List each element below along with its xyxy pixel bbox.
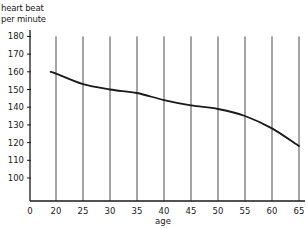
x-axis-ticks: 020253035404550556065: [27, 206, 304, 216]
y-tick-label: 170: [8, 49, 24, 59]
heart-rate-line: [51, 72, 299, 146]
line-chart: 100110120130140150160170180 020253035404…: [0, 0, 307, 229]
y-axis-ticks: 100110120130140150160170180: [8, 31, 31, 183]
x-tick-label: 55: [240, 206, 251, 216]
y-tick-label: 130: [8, 120, 24, 130]
x-tick-label: 20: [51, 206, 62, 216]
axes: [30, 30, 305, 201]
x-tick-label: 25: [78, 206, 89, 216]
x-tick-label: 45: [186, 206, 197, 216]
y-tick-label: 120: [8, 138, 24, 148]
y-tick-label: 110: [8, 155, 24, 165]
x-tick-label: 35: [132, 206, 143, 216]
y-tick-label: 140: [8, 102, 24, 112]
x-tick-label: 60: [267, 206, 278, 216]
y-tick-label: 150: [8, 85, 24, 95]
vertical-gridlines: [56, 36, 299, 201]
y-tick-label: 160: [8, 67, 24, 77]
x-axis-title: age: [155, 216, 171, 226]
y-tick-label: 180: [8, 31, 24, 41]
x-tick-label: 50: [213, 206, 224, 216]
x-tick-label: 0: [27, 206, 32, 216]
x-tick-label: 40: [159, 206, 170, 216]
x-tick-label: 30: [105, 206, 116, 216]
x-tick-label: 65: [294, 206, 305, 216]
y-tick-label: 100: [8, 173, 24, 183]
